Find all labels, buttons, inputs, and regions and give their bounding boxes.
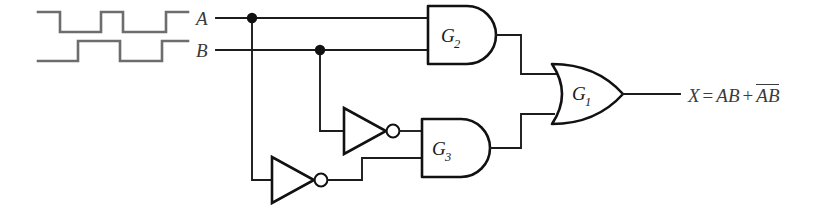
wire-b-to-inverter — [320, 50, 344, 131]
gate-g3-subscript: 3 — [444, 150, 451, 164]
inverter-not-b[interactable] — [344, 108, 399, 154]
term-a-complement: A — [756, 84, 768, 105]
wire-g2-out-to-g1 — [496, 35, 556, 74]
gate-g2[interactable]: G 2 — [428, 6, 496, 64]
wire-a-to-inverter — [252, 18, 272, 180]
gate-g1-label: G — [572, 83, 586, 104]
plus-sign: + — [740, 85, 757, 106]
wire-g3-out-to-g1 — [490, 114, 554, 148]
term-b-complement: B — [768, 84, 780, 105]
junction-dot-b — [315, 45, 325, 55]
circuit-svg: A B G 2 — [0, 0, 824, 221]
inverter-not-b-bubble — [387, 125, 400, 138]
gate-g1-subscript: 1 — [585, 95, 591, 109]
equals-sign: = — [700, 85, 717, 106]
gate-g3-label: G — [432, 138, 446, 159]
inverter-not-a[interactable] — [272, 157, 327, 203]
term-ab: AB — [716, 85, 739, 106]
gate-g3[interactable]: G 3 — [422, 119, 490, 177]
waveform-a — [38, 12, 188, 32]
input-b-label: B — [196, 40, 208, 61]
output-expression: X=AB+AB — [688, 84, 779, 105]
gate-g2-subscript: 2 — [454, 37, 460, 51]
junction-dot-a — [247, 13, 257, 23]
input-a-label: A — [194, 8, 208, 29]
output-x-label: X — [688, 85, 700, 106]
gate-g2-label: G — [441, 25, 455, 46]
gate-g1[interactable]: G 1 — [552, 64, 623, 124]
logic-circuit-diagram: A B G 2 — [0, 0, 824, 221]
wire-nota-to-g3 — [328, 158, 422, 180]
inverter-not-a-bubble — [315, 174, 328, 187]
waveform-b — [38, 41, 188, 61]
